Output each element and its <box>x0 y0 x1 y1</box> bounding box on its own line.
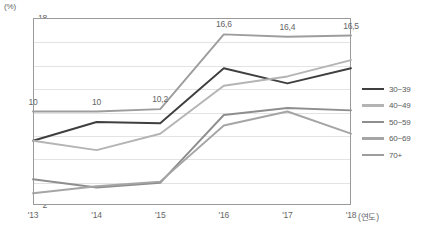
x-axis-tick-label: '13 <box>18 210 48 220</box>
y-axis-unit-label: (%) <box>4 2 16 11</box>
series-lines <box>33 18 351 205</box>
x-axis-tick-label: '15 <box>145 210 175 220</box>
legend-item-30~39[interactable]: 30~39 <box>362 84 410 94</box>
data-label: 10 <box>16 97 50 107</box>
legend-swatch-icon <box>362 104 384 107</box>
data-label: 16,5 <box>334 21 368 31</box>
legend-swatch-icon <box>362 137 384 140</box>
legend-label: 50~59 <box>389 118 410 127</box>
legend-item-60~69[interactable]: 60~69 <box>362 134 410 144</box>
legend-swatch-icon <box>362 88 384 91</box>
x-axis-title: (연도) <box>358 210 379 222</box>
legend-label: 40~49 <box>389 101 410 110</box>
x-axis-tick-label: '14 <box>82 210 112 220</box>
legend-swatch-icon <box>362 154 384 157</box>
legend-label: 30~39 <box>389 85 410 94</box>
series-line-60~69 <box>33 112 351 194</box>
legend-item-70+[interactable]: 70+ <box>362 150 410 160</box>
legend: 30~3940~4950~5960~6970+ <box>362 84 410 160</box>
legend-label: 60~69 <box>389 134 410 143</box>
data-label: 16,6 <box>207 19 241 29</box>
legend-label: 70+ <box>389 151 402 160</box>
line-chart: (%) 24681012141618 101010,216,616,416,5 … <box>0 0 426 250</box>
legend-item-50~59[interactable]: 50~59 <box>362 117 410 127</box>
data-label: 16,4 <box>270 22 304 32</box>
x-axis-tick-label: '17 <box>272 210 302 220</box>
x-axis-tick-label: '16 <box>209 210 239 220</box>
data-label: 10 <box>80 97 114 107</box>
legend-item-40~49[interactable]: 40~49 <box>362 101 410 111</box>
data-label: 10,2 <box>143 94 177 104</box>
legend-swatch-icon <box>362 121 384 124</box>
